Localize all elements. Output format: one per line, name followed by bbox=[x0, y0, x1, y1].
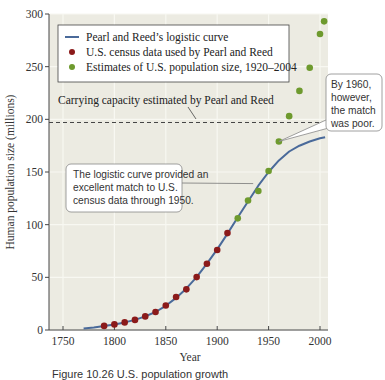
census-data-point bbox=[132, 317, 139, 324]
annotation-text: the match bbox=[331, 105, 376, 116]
estimate-data-point bbox=[317, 31, 324, 38]
annotation-text: was poor. bbox=[330, 118, 375, 129]
figure-caption: Figure 10.26 U.S. population growth bbox=[52, 368, 228, 380]
y-tick-label: 100 bbox=[26, 219, 44, 231]
y-tick-label: 150 bbox=[26, 166, 44, 178]
y-tick-label: 0 bbox=[37, 324, 43, 336]
estimate-data-point bbox=[255, 188, 262, 195]
census-data-point bbox=[111, 321, 118, 328]
legend-label: Pearl and Reed’s logistic curve bbox=[86, 31, 228, 44]
annotation-text: The logistic curve provided an bbox=[73, 169, 208, 180]
estimate-data-point bbox=[296, 88, 303, 95]
carrying-capacity-label: Carrying capacity estimated by Pearl and… bbox=[58, 94, 274, 107]
estimate-data-point bbox=[245, 197, 252, 204]
x-tick-label: 1950 bbox=[257, 335, 280, 347]
census-data-point bbox=[214, 247, 221, 254]
estimate-data-point bbox=[234, 215, 241, 222]
x-tick-label: 1750 bbox=[52, 335, 75, 347]
estimate-data-point bbox=[306, 64, 313, 71]
legend-label: U.S. census data used by Pearl and Reed bbox=[86, 46, 273, 59]
annotation-text: however, bbox=[331, 92, 372, 103]
x-tick-label: 2000 bbox=[309, 335, 332, 347]
legend-census-swatch bbox=[69, 49, 75, 55]
x-tick-label: 1800 bbox=[103, 335, 126, 347]
estimate-data-point bbox=[265, 168, 272, 175]
census-data-point bbox=[163, 302, 170, 309]
x-tick-label: 1850 bbox=[154, 335, 177, 347]
legend-label: Estimates of U.S. population size, 1920–… bbox=[86, 61, 297, 74]
census-data-point bbox=[183, 286, 190, 293]
estimate-data-point bbox=[286, 113, 293, 120]
census-data-point bbox=[224, 230, 231, 237]
x-axis-title: Year bbox=[179, 351, 200, 363]
annotation-text: excellent match to U.S. bbox=[73, 182, 178, 193]
y-tick-label: 50 bbox=[32, 271, 44, 283]
x-tick-label: 1900 bbox=[206, 335, 229, 347]
estimate-data-point bbox=[321, 18, 328, 25]
y-tick-label: 200 bbox=[26, 113, 44, 125]
census-data-point bbox=[101, 323, 108, 330]
census-data-point bbox=[142, 313, 149, 320]
census-data-point bbox=[173, 294, 180, 301]
y-axis-title: Human population size (millions) bbox=[4, 94, 17, 249]
y-tick-label: 250 bbox=[26, 61, 44, 73]
census-data-point bbox=[152, 309, 159, 316]
y-tick-label: 300 bbox=[26, 8, 44, 20]
annotation-text: census data through 1950. bbox=[73, 195, 194, 206]
census-data-point bbox=[193, 274, 200, 281]
legend-estimate-swatch bbox=[69, 64, 75, 70]
annotation-text: By 1960, bbox=[331, 79, 371, 90]
census-data-point bbox=[204, 260, 211, 267]
census-data-point bbox=[121, 319, 128, 326]
